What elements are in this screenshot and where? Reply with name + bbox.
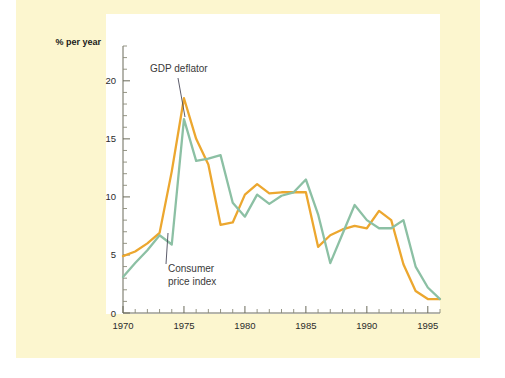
x-tick-label: 1995 xyxy=(417,320,438,331)
annotation-gdp-deflator: GDP deflator xyxy=(150,63,208,117)
annotation-consumer-price-index: Consumer price index xyxy=(166,233,216,287)
y-axis-tick-labels: 05101520 xyxy=(105,75,116,318)
x-tick-label: 1980 xyxy=(234,320,255,331)
x-tick-label: 1970 xyxy=(112,320,133,331)
y-tick-label: 15 xyxy=(105,133,116,144)
annotation-cpi-leader-line xyxy=(166,233,168,264)
annotation-gdp-deflator-label: GDP deflator xyxy=(150,63,208,74)
x-axis-ticks xyxy=(123,306,440,313)
inflation-line-chart: % per year 05101520 19701975198019851990… xyxy=(0,0,505,378)
y-tick-label: 5 xyxy=(111,249,116,260)
figure-root: % per year 05101520 19701975198019851990… xyxy=(0,0,505,378)
y-tick-label: 10 xyxy=(105,191,116,202)
annotation-cpi-label-line1: Consumer xyxy=(168,263,215,274)
y-axis-title: % per year xyxy=(55,37,101,47)
x-tick-label: 1975 xyxy=(173,320,194,331)
x-tick-label: 1985 xyxy=(295,320,316,331)
y-tick-label: 0 xyxy=(111,308,116,319)
y-tick-label: 20 xyxy=(105,75,116,86)
annotation-cpi-label-line2: price index xyxy=(168,276,216,287)
x-tick-label: 1990 xyxy=(356,320,377,331)
x-axis-tick-labels: 197019751980198519901995 xyxy=(112,320,438,331)
